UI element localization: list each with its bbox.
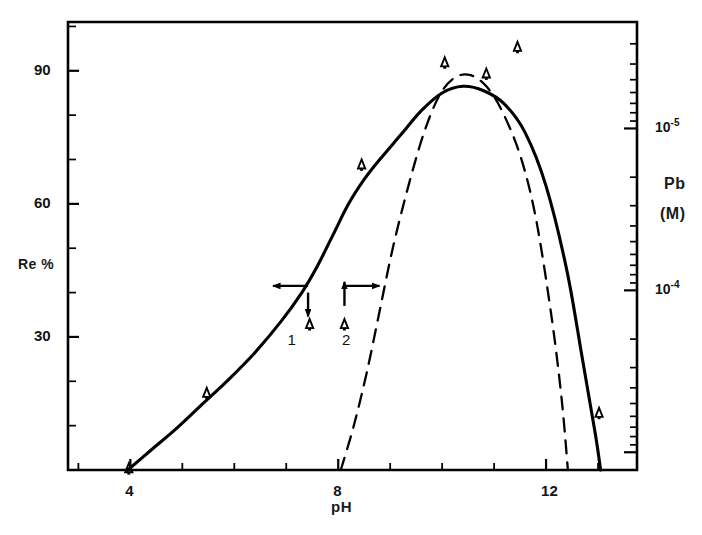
data-marker-stem <box>205 396 208 399</box>
y2-axis-title-line2: (M) <box>660 205 685 223</box>
x-axis-ticks <box>78 459 598 470</box>
y2-axis-ticks <box>624 44 637 452</box>
data-marker-triangle <box>341 319 348 328</box>
curve-label-1: 1 <box>287 331 295 348</box>
data-marker-triangle <box>358 159 365 168</box>
data-marker-stem <box>127 472 130 475</box>
data-marker-triangle <box>306 319 313 328</box>
y-axis-title: Re % <box>18 256 54 272</box>
x-tick-label: 12 <box>541 482 558 499</box>
x-tick-label: 8 <box>333 482 341 499</box>
y-axis-ticks <box>68 26 79 425</box>
data-marker-triangle <box>595 408 602 417</box>
y2-axis-title-line1: Pb <box>664 175 685 193</box>
data-marker-stem <box>485 77 488 80</box>
data-marker-stem <box>516 50 519 53</box>
x-tick-label: 4 <box>125 482 133 499</box>
curve-1 <box>128 86 601 470</box>
plot-border <box>68 22 637 470</box>
data-marker-triangle <box>441 57 448 66</box>
figure-container: Re % pH Pb (M) 481230609010-510-412 <box>0 0 702 535</box>
data-marker-stem <box>443 66 446 69</box>
y-tick-label: 30 <box>34 327 51 344</box>
data-marker-stem <box>360 168 363 171</box>
data-marker-triangle <box>514 42 521 51</box>
y-tick-label: 60 <box>34 194 51 211</box>
data-series <box>128 74 601 470</box>
curve-label-2: 2 <box>342 331 350 348</box>
y2-tick-label: 10-5 <box>655 117 679 135</box>
data-marker-triangle <box>483 69 490 78</box>
plot-frame <box>68 22 637 470</box>
y-tick-label: 90 <box>34 61 51 78</box>
data-marker-stem <box>598 416 601 419</box>
data-marker-stem <box>343 328 346 331</box>
y2-tick-label: 10-4 <box>655 279 679 297</box>
data-marker-stem <box>308 328 311 331</box>
data-marker-triangle <box>203 388 210 397</box>
curve-2 <box>341 74 568 470</box>
chart-canvas <box>0 0 702 535</box>
x-axis-title: pH <box>331 498 352 515</box>
